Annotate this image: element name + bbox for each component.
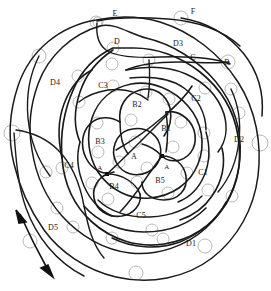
region-label-b2: B2 <box>132 100 142 109</box>
region-label-d5: D5 <box>48 223 58 232</box>
node-circle <box>252 135 268 151</box>
d5-spiral-tail <box>14 133 84 276</box>
node-circle <box>102 193 114 205</box>
square-marker <box>160 154 164 158</box>
diagram-canvas: AAAB1B2B3B4B5C1C2C3C4C5D1D2D3D4D5CBDEF <box>0 0 271 291</box>
b-ring-boundary <box>89 83 202 198</box>
node-circle <box>146 224 158 236</box>
region-label-b: B <box>224 58 230 67</box>
region-label-b1: B1 <box>161 124 171 133</box>
region-label-a-left: A <box>97 164 102 172</box>
node-circle <box>4 125 20 141</box>
region-label-d1: D1 <box>186 239 196 248</box>
region-label-e: E <box>112 9 117 18</box>
region-label-d3: D3 <box>173 39 183 48</box>
region-label-c1: C1 <box>198 168 208 177</box>
region-label-b5: B5 <box>155 176 165 185</box>
b-arc-boundary <box>126 62 229 70</box>
a-diagonal-chord <box>116 86 192 150</box>
node-circle <box>198 239 212 253</box>
region-label-c2: C2 <box>191 94 201 103</box>
region-label-d2: D2 <box>234 135 244 144</box>
node-circle <box>199 82 211 94</box>
region-label-b3: B3 <box>95 137 105 146</box>
region-label-c5: C5 <box>136 211 146 220</box>
region-label-d4: D4 <box>50 78 60 87</box>
b2-left-edge <box>120 122 128 154</box>
region-label-c3: C3 <box>98 81 108 90</box>
region-label-a-right: A <box>164 163 169 171</box>
c2-region-boundary <box>126 67 226 152</box>
square-marker <box>105 172 109 176</box>
node-circle <box>129 266 143 280</box>
b1-lower-edge <box>142 144 162 156</box>
double-headed-arrow <box>16 210 53 277</box>
node-circle <box>125 114 137 126</box>
region-label-f: F <box>191 7 196 16</box>
region-label-d: D <box>114 37 120 46</box>
node-circle <box>167 141 179 153</box>
node-circle <box>202 184 214 196</box>
region-label-c4: C4 <box>64 161 74 170</box>
region-label-a-center: A <box>131 152 137 161</box>
region-label-c: C <box>190 53 196 62</box>
node-circle <box>106 58 118 70</box>
region-label-b4: B4 <box>109 182 119 191</box>
diagram-svg <box>0 0 271 291</box>
node-circle <box>92 146 104 158</box>
